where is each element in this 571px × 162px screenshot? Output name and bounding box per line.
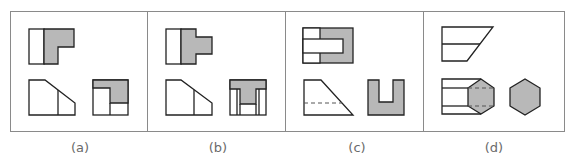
top-view-left-part [166,29,181,64]
panel-a-front-view [29,80,75,115]
panel-b-top-view [166,29,212,64]
panel-d-front-view [442,79,494,114]
panel-b-label: (b) [209,140,227,155]
panel-d-side-view [510,79,540,115]
panel-c-label: (c) [348,140,365,155]
panel-a-side-view [93,80,128,115]
front-view-hexagon [468,79,494,114]
front-view-outline [29,80,75,115]
panel-a-top-view [29,29,74,64]
top-view-slot [303,39,343,53]
panel-a-label: (a) [71,140,89,155]
front-view-wedge [304,80,353,115]
panel-c-top-view [303,28,353,63]
panel-b-front-view [166,80,212,115]
side-view-hexagon [510,79,540,115]
panel-d-top-view [442,27,493,61]
panel-b-side-view [230,80,266,115]
panel-c: (c) [303,28,404,155]
panel-c-front-view [304,80,353,115]
panel-a: (a) [29,29,128,155]
front-view-outline [166,80,212,115]
top-view-left-part [29,29,44,64]
panel-b: (b) [166,29,266,155]
panel-d: (d) [442,27,540,155]
top-view-shaded-tab [181,29,212,64]
side-view-u-shape [368,80,404,115]
panel-c-side-view [368,80,404,115]
panel-d-label: (d) [485,140,503,155]
top-view-shaded-l [44,29,74,64]
orthographic-projection-figure: (a) (b) [0,0,571,162]
